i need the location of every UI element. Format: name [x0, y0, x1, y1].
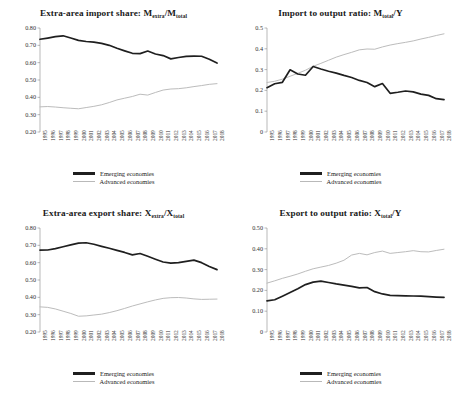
plot-svg: [227, 222, 454, 340]
x-axis-tick-label: 2018: [219, 330, 225, 341]
x-axis-tick-label: 2002: [323, 330, 329, 341]
panel-title: Extra-area export share: Xextra/Xtotal: [0, 208, 227, 218]
x-axis-tick-label: 1996: [50, 330, 56, 341]
x-axis-tick-label: 2013: [181, 330, 187, 341]
x-axis-tick-label: 2009: [377, 330, 383, 341]
x-axis-tick-label: 2014: [188, 330, 194, 341]
legend-item-advanced: Advanced economies: [300, 178, 382, 185]
legend-swatch-advanced: [300, 181, 322, 182]
x-axis-tick-label: 1999: [300, 330, 306, 341]
x-axis-tick-label: 2003: [104, 330, 110, 341]
legend-swatch-emerging: [73, 372, 95, 374]
y-axis-tick-label: 0.20: [237, 286, 263, 293]
x-axis-tick-label: 2010: [385, 330, 391, 341]
y-axis-tick-label: 0.3: [237, 66, 263, 73]
y-axis-tick-label: 0.70: [10, 41, 36, 48]
x-axis-tick-label: 2017: [439, 130, 445, 141]
x-axis-tick-label: 2018: [446, 330, 452, 341]
x-axis-tick-label: 2010: [158, 330, 164, 341]
plot-area: [227, 222, 454, 340]
x-axis-tick-label: 2000: [81, 330, 87, 341]
figure-grid: Extra-area import share: Mextra/Mtotal 1…: [0, 0, 454, 401]
x-axis-tick-label: 2008: [142, 330, 148, 341]
x-axis-tick-label: 2015: [423, 330, 429, 341]
x-axis-tick-label: 2005: [346, 130, 352, 141]
panel-title: Extra-area import share: Mextra/Mtotal: [0, 8, 227, 18]
y-axis-tick-label: 0.30: [237, 266, 263, 273]
x-axis-tick-label: 2017: [439, 330, 445, 341]
x-axis-tick-label: 2018: [446, 130, 452, 141]
x-axis-tick-label: 1998: [65, 130, 71, 141]
x-axis-tick-label: 1996: [277, 330, 283, 341]
x-axis-tick-label: 2006: [127, 130, 133, 141]
x-axis-tick-label: 2011: [392, 330, 398, 341]
panel-title-mid: /M: [165, 8, 176, 18]
series-line: [40, 84, 217, 109]
y-axis-tick-label: 0.70: [10, 241, 36, 248]
panel-title-sub1: total: [382, 13, 393, 19]
y-axis-tick-label: 0.2: [237, 86, 263, 93]
legend: Emerging economies Advanced economies: [227, 370, 454, 385]
y-axis-tick-label: 0.30: [10, 111, 36, 118]
legend-item-emerging: Emerging economies: [300, 370, 381, 377]
x-axis-tick-label: 2003: [331, 130, 337, 141]
x-axis-tick-label: 1996: [277, 130, 283, 141]
panel-extra-area-import-share: Extra-area import share: Mextra/Mtotal 1…: [0, 0, 227, 200]
legend: Emerging economies Advanced economies: [0, 170, 227, 185]
y-axis-tick-label: 0.20: [10, 128, 36, 135]
legend-label-emerging: Emerging economies: [327, 370, 381, 377]
x-axis-tick-label: 1997: [285, 330, 291, 341]
x-axis-tick-label: 1995: [42, 130, 48, 141]
x-axis-tick-label: 2013: [408, 130, 414, 141]
x-axis-tick-label: 2011: [392, 130, 398, 141]
legend-item-advanced: Advanced economies: [73, 378, 155, 385]
legend-label-emerging: Emerging economies: [100, 370, 154, 377]
legend-item-advanced: Advanced economies: [300, 378, 382, 385]
x-axis-tick-label: 2016: [431, 130, 437, 141]
y-axis-tick-label: 0.80: [10, 24, 36, 31]
panel-title: Export to output ratio: Xtotal/Y: [227, 208, 454, 218]
x-axis-tick-label: 2008: [369, 130, 375, 141]
legend-swatch-emerging: [73, 172, 95, 174]
x-axis-tick-label: 2014: [415, 130, 421, 141]
x-axis-tick-label: 1997: [58, 330, 64, 341]
x-axis-tick-label: 2002: [323, 130, 329, 141]
x-axis-tick-label: 2000: [81, 130, 87, 141]
x-axis-tick-label: 2003: [104, 130, 110, 141]
legend: Emerging economies Advanced economies: [227, 170, 454, 185]
legend-swatch-advanced: [73, 381, 95, 382]
panel-title-text: Export to output ratio: X: [280, 208, 382, 218]
x-axis-tick-label: 2004: [338, 330, 344, 341]
panel-title-text: Extra-area import share: M: [40, 8, 152, 18]
x-axis-tick-label: 2000: [308, 330, 314, 341]
legend-label-advanced: Advanced economies: [327, 178, 382, 185]
x-axis-tick-label: 2010: [158, 130, 164, 141]
x-axis-tick-label: 1999: [73, 130, 79, 141]
x-axis-tick-label: 2004: [111, 330, 117, 341]
plot-area: [227, 22, 454, 140]
panel-title-sub2: total: [176, 13, 187, 19]
x-axis-tick-label: 2017: [212, 330, 218, 341]
y-axis-tick-label: 0.50: [237, 224, 263, 231]
legend: Emerging economies Advanced economies: [0, 370, 227, 385]
x-axis-tick-label: 1997: [58, 130, 64, 141]
x-axis-tick-label: 2013: [181, 130, 187, 141]
panel-title-sub2: total: [173, 213, 184, 219]
x-axis-tick-label: 1995: [269, 330, 275, 341]
legend-swatch-emerging: [300, 372, 322, 374]
y-axis-tick-label: 0.30: [10, 311, 36, 318]
x-axis-tick-label: 2001: [315, 130, 321, 141]
x-axis-tick-label: 1998: [65, 330, 71, 341]
legend-swatch-advanced: [300, 381, 322, 382]
x-axis-tick-label: 2004: [111, 130, 117, 141]
legend-item-advanced: Advanced economies: [73, 178, 155, 185]
legend-swatch-emerging: [300, 172, 322, 174]
y-axis-tick-label: 0.50: [10, 276, 36, 283]
x-axis-tick-label: 1998: [292, 330, 298, 341]
panel-import-to-output-ratio: Import to output ratio: Mtotal/Y 1995199…: [227, 0, 454, 200]
x-axis-tick-label: 2005: [119, 130, 125, 141]
legend-label-advanced: Advanced economies: [100, 378, 155, 385]
x-axis-tick-label: 2005: [119, 330, 125, 341]
x-axis-tick-label: 2009: [150, 130, 156, 141]
x-axis-tick-label: 2012: [400, 130, 406, 141]
